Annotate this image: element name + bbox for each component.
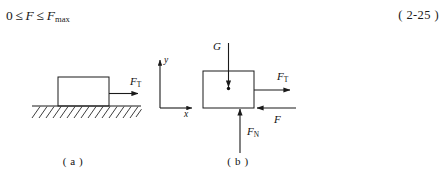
panel-b-caption: ( b ) bbox=[227, 155, 248, 168]
panel-b-force-ft-subscript: T bbox=[284, 75, 289, 84]
panel-b-group: G FN FT F ( b ) bbox=[203, 40, 296, 168]
equation-relation-1: ≤ bbox=[13, 8, 26, 23]
panel-a-force-ft-subscript: T bbox=[137, 80, 142, 89]
panel-a-caption: ( a ) bbox=[63, 155, 84, 168]
panel-b-force-ft-label: FT bbox=[276, 70, 289, 84]
panel-b-force-f-label: F bbox=[273, 113, 281, 125]
panel-a-ground-hatching bbox=[32, 107, 142, 118]
panel-b-force-fn-subscript: N bbox=[254, 130, 260, 139]
equation-variable-max-subscript: max bbox=[55, 14, 70, 24]
equation-number: ( 2-25 ) bbox=[398, 8, 439, 23]
equation-row: 0≤F≤Fmax ( 2-25 ) bbox=[0, 8, 446, 30]
equation-lhs-value: 0 bbox=[6, 8, 13, 23]
axis-y-label: y bbox=[163, 55, 169, 65]
panel-a-block bbox=[58, 77, 109, 106]
coordinate-axes-group: y x bbox=[160, 55, 192, 119]
panel-b-force-g-symbol: G bbox=[213, 40, 221, 52]
axis-x-label: x bbox=[183, 109, 189, 119]
panel-b-force-g-label: G bbox=[213, 40, 221, 52]
figure-canvas: FT ( a ) y x G FN FT bbox=[0, 30, 446, 178]
panel-a-force-ft-label: FT bbox=[129, 75, 142, 89]
equation-formula: 0≤F≤Fmax bbox=[6, 8, 70, 24]
equation-relation-2: ≤ bbox=[34, 8, 47, 23]
equation-variable-max: F bbox=[47, 8, 55, 23]
panel-a-group: FT ( a ) bbox=[32, 75, 142, 168]
panel-b-force-fn-label: FN bbox=[246, 125, 260, 139]
panel-b-center-of-mass-dot bbox=[227, 87, 230, 90]
panel-b-force-f-symbol: F bbox=[273, 113, 281, 125]
equation-variable: F bbox=[26, 8, 34, 23]
